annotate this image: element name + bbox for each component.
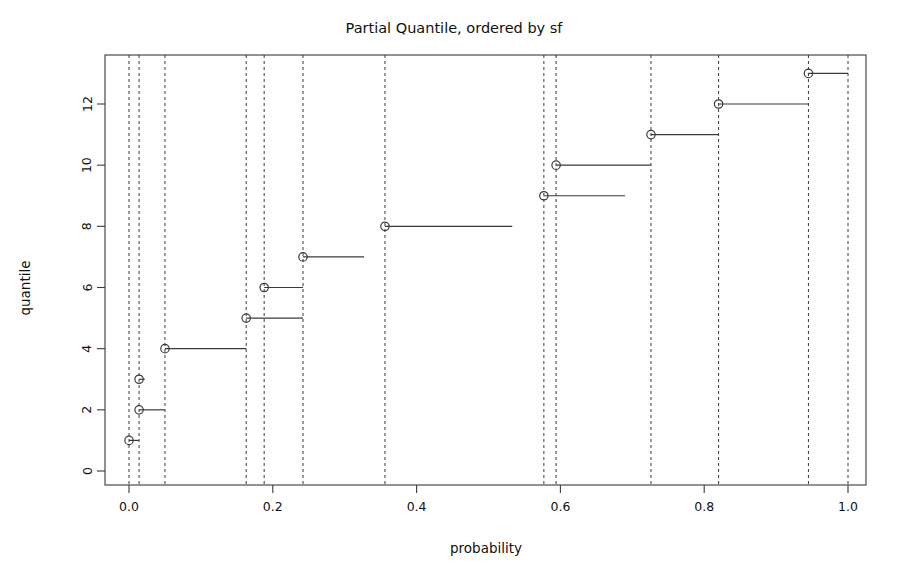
y-axis-label: quantile xyxy=(17,260,33,315)
x-tick-label: 0.8 xyxy=(694,499,714,514)
x-axis-label: probability xyxy=(450,540,522,556)
x-tick-label: 0.0 xyxy=(119,499,139,514)
page-title: Partial Quantile, ordered by sf xyxy=(346,20,564,36)
y-tick-label: 10 xyxy=(79,157,94,173)
y-tick-label: 0 xyxy=(80,467,95,475)
chart-canvas: Partial Quantile, ordered by sf 0.00.20.… xyxy=(0,0,908,584)
y-tick-label: 4 xyxy=(79,345,94,353)
partial-quantile-step-plot: Partial Quantile, ordered by sf 0.00.20.… xyxy=(0,0,908,584)
x-tick-label: 0.4 xyxy=(407,499,427,514)
x-tick-label: 1.0 xyxy=(838,499,858,514)
x-tick-label: 0.2 xyxy=(263,499,283,514)
x-tick-label: 0.6 xyxy=(550,499,570,514)
y-tick-label: 6 xyxy=(80,283,95,291)
y-tick-label: 12 xyxy=(80,96,95,112)
plot-background xyxy=(0,0,908,584)
y-tick-label: 8 xyxy=(80,222,95,230)
y-tick-label: 2 xyxy=(80,406,95,414)
